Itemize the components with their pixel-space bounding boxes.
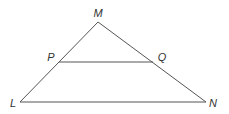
vertex-label-P: P — [47, 51, 55, 63]
vertex-label-N: N — [209, 97, 217, 109]
triangle-diagram: MLNPQ — [0, 0, 229, 114]
vertex-label-M: M — [93, 7, 103, 19]
vertex-label-L: L — [10, 97, 16, 109]
vertex-label-Q: Q — [158, 51, 167, 63]
